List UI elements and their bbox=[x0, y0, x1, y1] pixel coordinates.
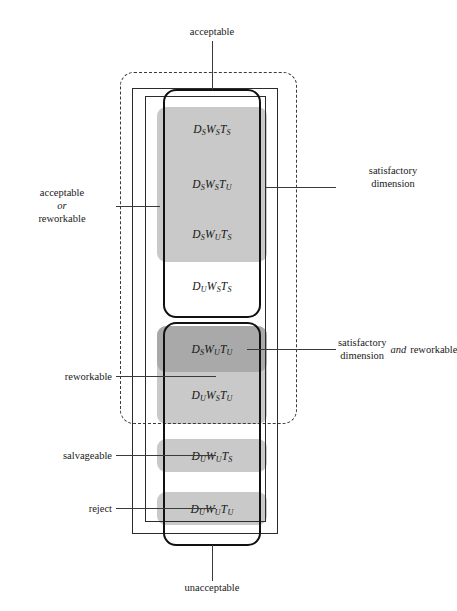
cell-t-sub: U bbox=[227, 348, 233, 357]
cell-w: W bbox=[206, 450, 216, 462]
cell-t: T bbox=[220, 123, 227, 135]
leader-satisfactory-and-reworkable bbox=[247, 349, 336, 350]
cell-d: D bbox=[192, 280, 201, 292]
cell-label-duws-ts: DUWSTS bbox=[157, 280, 267, 294]
label-line-1: satisfactory bbox=[338, 164, 448, 177]
leader-acceptable-or-reworkable bbox=[116, 206, 160, 207]
cell-label-dsws-ts: DSWSTS bbox=[157, 123, 267, 137]
cell-t-sub: S bbox=[228, 455, 232, 464]
cell-label-dswu-ts: DSWUTS bbox=[157, 228, 267, 242]
cell-w: W bbox=[205, 178, 215, 190]
cell-label-duws-tu: DUWSTU bbox=[157, 389, 267, 403]
cell-d: D bbox=[192, 178, 201, 190]
leader-salvageable bbox=[116, 455, 216, 456]
label-line-2: dimension bbox=[338, 177, 448, 190]
cell-label-dsws-tu: DSWSTU bbox=[157, 178, 267, 192]
cell-label-dswu-tu: DSWUTU bbox=[157, 343, 267, 357]
cell-t-sub: S bbox=[227, 128, 231, 137]
label-line-2: dimension bbox=[338, 349, 386, 362]
cell-w: W bbox=[206, 123, 216, 135]
cell-d: D bbox=[191, 343, 200, 355]
cell-t-sub: U bbox=[227, 394, 233, 403]
leader-acceptable bbox=[212, 41, 213, 90]
label-reworkable-suffix: reworkable bbox=[410, 343, 457, 356]
label-acceptable: acceptable bbox=[162, 25, 262, 38]
cell-label-duwu-ts: DUWUTS bbox=[157, 450, 267, 464]
cell-t-sub: S bbox=[227, 233, 231, 242]
label-line-3: reworkable bbox=[12, 212, 112, 225]
cell-w: W bbox=[206, 389, 216, 401]
cell-t-sub: U bbox=[227, 508, 233, 517]
label-unacceptable-text: unacceptable bbox=[185, 582, 240, 593]
label-unacceptable: unacceptable bbox=[162, 581, 262, 594]
label-line-1: satisfactory bbox=[338, 336, 386, 349]
leader-reject bbox=[116, 508, 216, 509]
label-satisfactory-dimension-stack: satisfactory dimension bbox=[338, 336, 386, 362]
label-salvageable-text: salvageable bbox=[63, 450, 112, 461]
cell-w: W bbox=[207, 280, 217, 292]
label-reworkable: reworkable bbox=[18, 370, 112, 383]
cell-d: D bbox=[191, 389, 200, 401]
leader-unacceptable bbox=[212, 545, 213, 581]
cell-label-duwu-tu: DUWUTU bbox=[157, 503, 267, 517]
cell-t: T bbox=[220, 389, 227, 401]
label-line-2-or: or bbox=[12, 199, 112, 212]
cell-t-sub: U bbox=[226, 183, 232, 192]
cell-t: T bbox=[220, 343, 227, 355]
label-satisfactory-and-reworkable: satisfactory dimension and reworkable bbox=[338, 336, 456, 362]
label-acceptable-or-reworkable: acceptable or reworkable bbox=[12, 186, 112, 225]
label-reject: reject bbox=[18, 502, 112, 515]
label-reworkable-text: reworkable bbox=[65, 371, 112, 382]
cell-t: T bbox=[219, 178, 226, 190]
leader-satisfactory-dimension bbox=[266, 187, 336, 188]
cell-d: D bbox=[191, 503, 200, 515]
cell-d: D bbox=[192, 228, 201, 240]
label-reject-text: reject bbox=[89, 503, 112, 514]
label-satisfactory-dimension: satisfactory dimension bbox=[338, 164, 448, 190]
cell-w: W bbox=[204, 343, 214, 355]
label-line-1: acceptable bbox=[12, 186, 112, 199]
cell-w: W bbox=[205, 503, 215, 515]
cell-d: D bbox=[193, 123, 202, 135]
label-acceptable-text: acceptable bbox=[190, 26, 234, 37]
label-and-italic: and bbox=[390, 343, 406, 356]
cell-w: W bbox=[205, 228, 215, 240]
cell-d: D bbox=[191, 450, 200, 462]
leader-reworkable bbox=[116, 376, 216, 377]
label-salvageable: salvageable bbox=[18, 449, 112, 462]
cell-t-sub: S bbox=[227, 285, 231, 294]
